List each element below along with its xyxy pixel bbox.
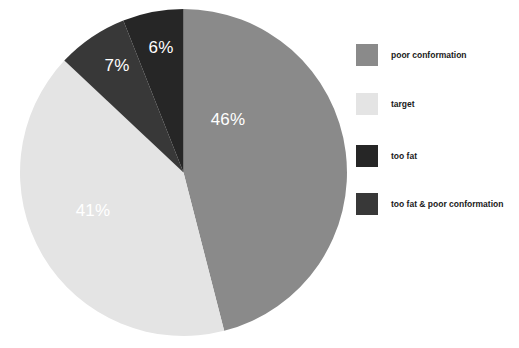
legend-item-label: poor conformation [391,51,467,60]
pie-slice-group [20,9,347,336]
pie-plot-area: 46%41%7%6% [0,0,350,348]
legend-color-swatch [356,145,378,167]
pie-svg [0,0,350,348]
legend-color-swatch [356,44,378,66]
legend-item-label: too fat & poor conformation [391,200,503,209]
legend-item[interactable]: too fat & poor conformation [356,193,503,215]
legend-item-label: too fat [391,152,417,161]
legend-item-label: target [391,100,415,109]
pie-chart-figure: 46%41%7%6% poor conformationtargettoo fa… [0,0,519,348]
legend-color-swatch [356,93,378,115]
legend-color-swatch [356,193,378,215]
legend-item[interactable]: target [356,93,415,115]
chart-legend: poor conformationtargettoo fattoo fat & … [356,44,516,234]
legend-item[interactable]: too fat [356,145,417,167]
legend-item[interactable]: poor conformation [356,44,467,66]
